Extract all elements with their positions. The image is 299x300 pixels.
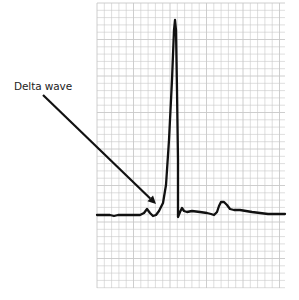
ecg-grid-and-trace [0,0,299,300]
delta-wave-label: Delta wave [14,80,72,92]
ecg-trace [97,20,285,217]
ecg-grid [97,3,285,288]
ecg-figure: Delta wave [0,0,299,300]
